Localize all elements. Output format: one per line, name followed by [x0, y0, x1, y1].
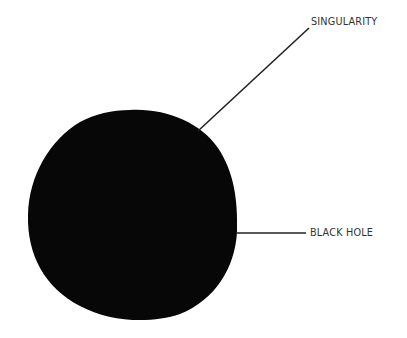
- singularity-pointer-line: [198, 28, 309, 131]
- black-hole-shape: [28, 110, 237, 320]
- diagram-canvas: [0, 0, 407, 338]
- black-hole-label: BLACK HOLE: [310, 226, 373, 239]
- singularity-label: SINGULARITY: [311, 15, 377, 28]
